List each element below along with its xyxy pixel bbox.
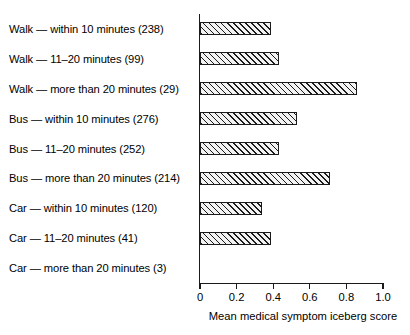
x-axis-tick-label: 0.4 xyxy=(253,291,293,304)
x-axis-tick-mark xyxy=(309,284,310,289)
category-label: Car — more than 20 minutes (3) xyxy=(9,261,197,275)
category-label: Car — 11–20 minutes (41) xyxy=(9,231,197,245)
x-axis-tick-label: 0.2 xyxy=(217,291,257,304)
bar xyxy=(200,142,279,155)
x-axis-tick-label: 0.6 xyxy=(290,291,330,304)
bar xyxy=(200,82,357,95)
plot-area: 00.20.40.60.81.0 xyxy=(200,14,384,283)
x-axis-line xyxy=(199,283,384,284)
bar xyxy=(200,112,297,125)
category-label: Bus — 11–20 minutes (252) xyxy=(9,142,197,156)
x-axis-tick-label: 1.0 xyxy=(363,291,403,304)
category-label-list: Walk — within 10 minutes (238)Walk — 11–… xyxy=(0,14,196,283)
bar-chart: Walk — within 10 minutes (238)Walk — 11–… xyxy=(0,0,410,335)
x-axis-tick-mark xyxy=(346,284,347,289)
category-label: Walk — 11–20 minutes (99) xyxy=(9,52,197,66)
bar xyxy=(200,202,262,215)
bar xyxy=(200,22,271,35)
bar xyxy=(200,52,279,65)
x-axis-tick-mark xyxy=(382,284,383,289)
x-axis-tick-label: 0.8 xyxy=(326,291,366,304)
x-axis-tick-mark xyxy=(273,284,274,289)
x-axis-title: Mean medical symptom iceberg score xyxy=(196,310,410,323)
category-label: Bus — more than 20 minutes (214) xyxy=(9,171,197,185)
category-label: Car — within 10 minutes (120) xyxy=(9,201,197,215)
bar xyxy=(200,232,271,245)
x-axis-tick-mark xyxy=(199,284,200,289)
x-axis-tick-mark xyxy=(236,284,237,289)
x-axis-tick-label: 0 xyxy=(180,291,220,304)
category-label: Walk — more than 20 minutes (29) xyxy=(9,82,197,96)
category-label: Bus — within 10 minutes (276) xyxy=(9,112,197,126)
bar xyxy=(200,172,330,185)
category-label: Walk — within 10 minutes (238) xyxy=(9,22,197,36)
